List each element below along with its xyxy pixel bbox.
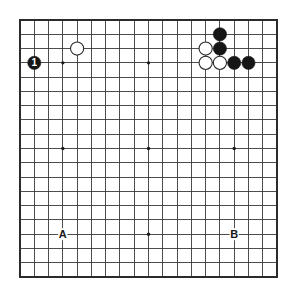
star-point (61, 147, 64, 150)
star-point (147, 61, 150, 64)
white-stone[interactable] (199, 42, 212, 55)
point-label[interactable]: A (59, 228, 67, 240)
star-point (233, 147, 236, 150)
goban-grid: AB (14, 14, 283, 292)
black-stone[interactable] (28, 56, 41, 69)
black-stone[interactable] (228, 56, 241, 69)
white-stone[interactable] (199, 56, 212, 69)
star-point (147, 147, 150, 150)
point-label[interactable]: B (230, 228, 238, 240)
goban[interactable]: AB 1 (14, 14, 283, 292)
star-point (147, 233, 150, 236)
white-stone[interactable] (213, 56, 226, 69)
black-stone[interactable] (213, 28, 226, 41)
black-stone[interactable] (213, 42, 226, 55)
black-stone[interactable] (242, 56, 255, 69)
go-board-diagram: AB 1 (0, 0, 296, 308)
star-point (61, 61, 64, 64)
white-stone[interactable] (71, 42, 84, 55)
